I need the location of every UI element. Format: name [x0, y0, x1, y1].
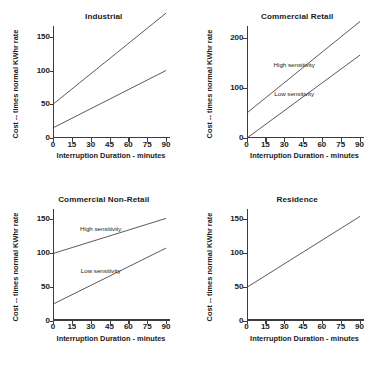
series-label-high-sensitivity: High sensitivity: [274, 62, 315, 68]
y-tick-label: 0: [239, 317, 243, 325]
figure-2x2-line-charts: Industrial0501001500153045607590Interrup…: [0, 0, 387, 365]
y-tick-label: 150: [37, 33, 50, 41]
y-tick-label: 200: [230, 34, 243, 42]
x-axis-title: Interruption Duration - minutes: [13, 334, 209, 343]
series-label-low-sensitivity: Low sensitivity: [81, 268, 121, 274]
series-line: [53, 248, 166, 304]
x-axis-title: Interruption Duration - minutes: [13, 151, 209, 160]
y-tick-label: 50: [235, 283, 244, 291]
y-tick-label: 0: [46, 317, 50, 325]
y-tick-label: 0: [46, 134, 50, 142]
series-canvas: [53, 199, 170, 325]
series-line: [53, 218, 166, 253]
y-axis-title: Cost -- times normal KWhr rate: [204, 212, 213, 321]
series-line: [53, 13, 166, 104]
y-tick-label: 150: [230, 215, 243, 223]
y-tick-label: 50: [41, 100, 50, 108]
y-tick-label: 100: [37, 67, 50, 75]
y-tick-label: 100: [230, 249, 243, 257]
series-label-high-sensitivity: High sensitivity: [80, 226, 121, 232]
series-label-low-sensitivity: Low sensitivity: [274, 91, 314, 97]
plot-area: 0501001500153045607590Interruption Durat…: [247, 213, 360, 321]
chart-panel: Industrial0501001500153045607590Interrup…: [0, 0, 194, 183]
y-axis-title: Cost -- times normal KWhr rate: [204, 30, 213, 139]
plot-area: 01002000153045607590Interruption Duratio…: [247, 30, 360, 138]
y-tick-label: 100: [37, 249, 50, 257]
plot-area: 0501001500153045607590Interruption Durat…: [53, 30, 166, 138]
y-axis-title: Cost -- times normal KWhr rate: [11, 212, 20, 321]
y-tick-label: 0: [239, 134, 243, 142]
x-axis-title: Interruption Duration - minutes: [207, 334, 387, 343]
chart-panel: Commercial Retail01002000153045607590Int…: [194, 0, 387, 183]
plot-area: 0501001500153045607590Interruption Durat…: [53, 213, 166, 321]
series-canvas: [247, 16, 364, 142]
y-axis-title: Cost -- times normal KWhr rate: [11, 30, 20, 139]
series-line: [247, 216, 360, 287]
series-canvas: [247, 199, 364, 325]
chart-panel: Residence0501001500153045607590Interrupt…: [194, 183, 387, 365]
y-tick-label: 100: [230, 84, 243, 92]
chart-panel: Commercial Non-Retail0501001500153045607…: [0, 183, 194, 365]
x-axis-title: Interruption Duration - minutes: [207, 151, 387, 160]
y-tick-label: 50: [41, 283, 50, 291]
y-tick-label: 150: [37, 215, 50, 223]
series-canvas: [53, 16, 170, 142]
series-line: [53, 71, 166, 128]
